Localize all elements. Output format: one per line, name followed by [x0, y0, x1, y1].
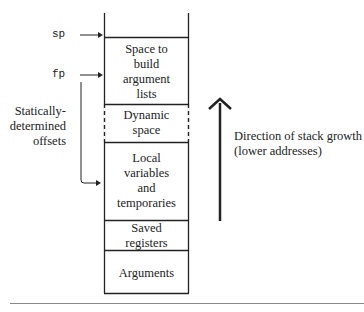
- offsets-line: Statically-: [8, 104, 66, 119]
- frame-line: and: [105, 181, 188, 196]
- frame-line: variables: [105, 166, 188, 181]
- frame-line: Space to: [105, 42, 188, 57]
- frame-args: Arguments: [105, 266, 188, 281]
- frame-line: temporaries: [105, 196, 188, 211]
- frame-saved: Saved registers: [105, 221, 188, 251]
- frame-line: lists: [105, 87, 188, 102]
- offsets-label: Statically- determined offsets: [8, 104, 66, 149]
- sp-label: sp: [52, 27, 65, 42]
- fp-label: fp: [52, 67, 65, 82]
- offsets-line: offsets: [8, 134, 66, 149]
- frame-line: argument: [105, 72, 188, 87]
- frame-line: Dynamic: [105, 108, 188, 123]
- frame-line: space: [105, 123, 188, 138]
- offsets-line: determined: [8, 119, 66, 134]
- frame-line: Arguments: [105, 266, 188, 281]
- frame-line: registers: [105, 236, 188, 251]
- frame-arg-build: Space to build argument lists: [105, 42, 188, 102]
- frame-dynamic: Dynamic space: [105, 108, 188, 138]
- growth-label: Direction of stack growth (lower address…: [234, 129, 362, 159]
- growth-line: (lower addresses): [234, 144, 362, 159]
- growth-line: Direction of stack growth: [234, 129, 362, 144]
- frame-line: Local: [105, 151, 188, 166]
- frame-line: Saved: [105, 221, 188, 236]
- frame-locals: Local variables and temporaries: [105, 151, 188, 211]
- frame-line: build: [105, 57, 188, 72]
